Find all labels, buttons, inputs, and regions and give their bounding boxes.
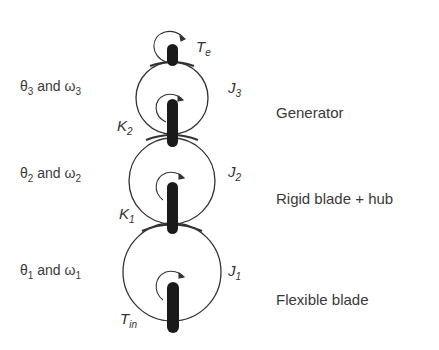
and-text: and (33, 262, 64, 278)
k-subscript: 2 (127, 126, 133, 137)
omega-subscript: 3 (75, 86, 81, 97)
theta-symbol: θ (20, 165, 28, 181)
inertia-label-j2: J2 (228, 163, 241, 183)
t-symbol: T (196, 38, 205, 55)
inertia-label-j1: J1 (228, 262, 241, 282)
theta-symbol: θ (20, 78, 28, 94)
state-label-mass-1: θ1 and ω1 (20, 262, 81, 281)
k-symbol: K (117, 117, 127, 134)
inertia-label-j3: J3 (228, 79, 241, 99)
shaft-k1 (167, 182, 178, 234)
and-text: and (33, 165, 64, 181)
omega-symbol: ω (65, 78, 76, 94)
shaft-top (167, 44, 178, 66)
shaft-k2 (167, 99, 178, 147)
shaft-bottom (167, 282, 179, 333)
omega-symbol: ω (65, 262, 76, 278)
and-text: and (33, 78, 64, 94)
omega-symbol: ω (65, 165, 76, 181)
j-symbol: J (228, 79, 236, 96)
torque-label-te: Te (196, 38, 211, 58)
state-label-mass-2: θ2 and ω2 (20, 165, 81, 184)
omega-subscript: 2 (75, 173, 81, 184)
j-subscript: 1 (236, 271, 242, 282)
spring-label-k2: K2 (117, 117, 133, 137)
k-symbol: K (119, 205, 129, 222)
j-symbol: J (228, 163, 236, 180)
component-label-flexible-blade: Flexible blade (276, 291, 369, 308)
t-subscript: in (129, 319, 137, 330)
state-label-mass-3: θ3 and ω3 (20, 78, 81, 97)
j-symbol: J (228, 262, 236, 279)
t-subscript: e (205, 47, 211, 58)
component-label-rigid-blade-hub: Rigid blade + hub (276, 190, 393, 207)
component-label-generator: Generator (276, 104, 344, 121)
torque-label-tin: Tin (120, 310, 137, 330)
theta-symbol: θ (20, 262, 28, 278)
j-subscript: 3 (236, 88, 242, 99)
k-subscript: 1 (129, 214, 135, 225)
omega-subscript: 1 (75, 270, 81, 281)
spring-label-k1: K1 (119, 205, 135, 225)
j-subscript: 2 (236, 172, 242, 183)
t-symbol: T (120, 310, 129, 327)
